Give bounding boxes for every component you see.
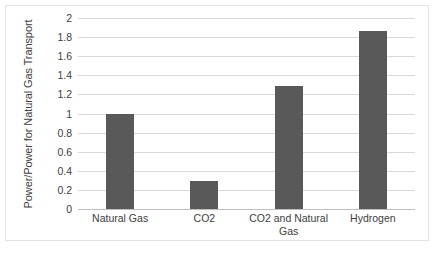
y-axis-title: Power/Power for Natural Gas Transport (20, 18, 36, 210)
y-axis-tick-label: 0.2 (38, 185, 72, 196)
x-axis-tick-label: Hydrogen (331, 212, 415, 238)
bars-group (78, 18, 415, 209)
gridline (78, 209, 415, 210)
x-axis-tick-label: Natural Gas (78, 212, 162, 238)
bar-chart-figure: Power/Power for Natural Gas Transport 00… (0, 0, 435, 257)
bar-slot (331, 18, 415, 209)
y-axis-tick-label: 1.2 (38, 89, 72, 100)
y-axis-tick-label: 1 (38, 108, 72, 119)
y-axis-tick-label: 0.4 (38, 166, 72, 177)
bar-co2-and-natural-gas (275, 86, 303, 209)
bar-slot (162, 18, 246, 209)
plot-area (78, 18, 415, 209)
bar-slot (247, 18, 331, 209)
y-axis-tick-label: 0 (38, 204, 72, 215)
x-axis-tick-labels: Natural GasCO2CO2 and Natural GasHydroge… (78, 212, 415, 238)
y-axis-tick-label: 2 (38, 13, 72, 24)
y-axis-tick-label: 0.8 (38, 127, 72, 138)
x-axis-tick-label: CO2 (162, 212, 246, 238)
bar-slot (78, 18, 162, 209)
y-axis-tick-labels: 00.20.40.60.811.21.41.61.82 (38, 18, 72, 209)
y-axis-tick-label: 0.6 (38, 146, 72, 157)
bar-co2 (190, 181, 218, 209)
bar-natural-gas (106, 114, 134, 210)
y-axis-tick-label: 1.4 (38, 70, 72, 81)
x-axis-tick-label: CO2 and Natural Gas (247, 212, 331, 238)
y-axis-tick-label: 1.8 (38, 32, 72, 43)
y-axis-tick-label: 1.6 (38, 51, 72, 62)
bar-hydrogen (359, 31, 387, 209)
